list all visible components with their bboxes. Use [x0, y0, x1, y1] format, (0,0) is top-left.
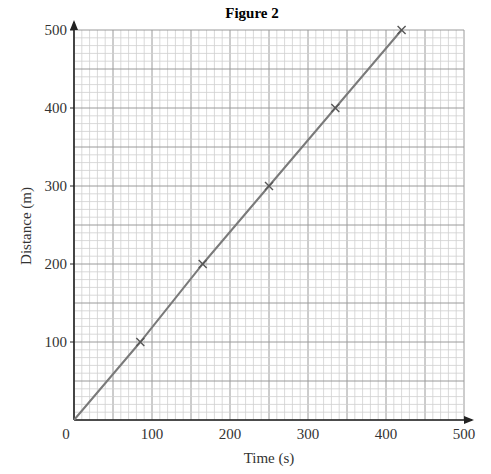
y-tick-label: 400 — [45, 100, 68, 116]
x-tick-label: 400 — [375, 426, 398, 442]
x-tick-label: 300 — [297, 426, 320, 442]
y-tick-label: 500 — [45, 22, 68, 38]
distance-time-chart: Figure 2 0100200300400500 10020030040050… — [0, 0, 491, 474]
y-tick-label: 300 — [45, 178, 68, 194]
x-tick-label: 500 — [453, 426, 476, 442]
y-tick-labels: 100200300400500 — [45, 22, 75, 350]
chart-title: Figure 2 — [225, 5, 278, 21]
data-series — [74, 26, 406, 420]
y-axis-arrow-icon — [70, 20, 78, 30]
y-tick-label: 100 — [45, 334, 68, 350]
x-tick-label: 200 — [219, 426, 242, 442]
x-tick-labels: 0100200300400500 — [62, 426, 475, 442]
x-axis-label: Time (s) — [244, 450, 295, 467]
axes — [70, 20, 474, 424]
grid — [74, 30, 464, 420]
x-tick-label: 100 — [141, 426, 164, 442]
y-tick-label: 200 — [45, 256, 68, 272]
x-axis-arrow-icon — [464, 416, 474, 424]
x-tick-label: 0 — [62, 426, 70, 442]
y-axis-label: Distance (m) — [18, 187, 35, 265]
